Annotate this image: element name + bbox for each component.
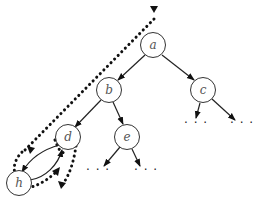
traversal-arrow-icon (27, 146, 35, 154)
node-label-d: d (64, 130, 72, 144)
node-h: h (7, 171, 32, 196)
ellipsis-group: · · · · · · · · · · · · (86, 116, 253, 177)
edge-a-c (162, 55, 194, 80)
traversal-start-arrow-icon (150, 6, 158, 13)
node-d: d (56, 125, 81, 150)
node-label-e: e (123, 130, 130, 144)
node-c: c (191, 78, 216, 103)
ellipsis-e-right: · · · (134, 163, 158, 177)
traversal-end-arrow-icon (58, 181, 66, 189)
node-label-a: a (149, 38, 156, 52)
edge-h-d (30, 150, 62, 180)
node-label-c: c (200, 83, 207, 97)
ellipsis-c-left: · · · (184, 116, 208, 130)
edge-b-e (113, 102, 123, 124)
node-label-b: b (105, 83, 113, 97)
ellipsis-e-left: · · · (86, 163, 110, 177)
edge-d-h (22, 145, 60, 172)
traversal-return-arrow-icon (52, 167, 60, 176)
node-a: a (141, 33, 166, 58)
edge-a-b (118, 55, 145, 80)
traversal-path (14, 6, 158, 189)
ellipsis-c-right: · · · (230, 116, 253, 130)
node-label-h: h (15, 176, 23, 190)
edge-b-d (75, 100, 101, 127)
node-b: b (97, 78, 122, 103)
tree-diagram: · · · · · · · · · · · · a b c d e h (0, 0, 253, 204)
node-e: e (115, 125, 140, 150)
